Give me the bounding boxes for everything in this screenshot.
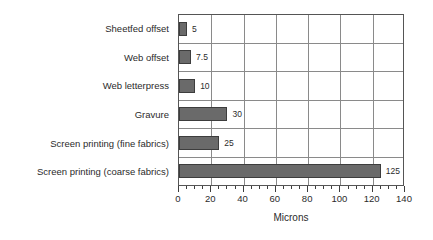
x-axis-title: Microns <box>178 212 404 223</box>
x-tick-minor <box>364 186 365 189</box>
x-tick-major <box>404 186 405 192</box>
plot-area: 5 7.5 10 30 25 125 <box>178 14 404 186</box>
x-tick-label: 80 <box>302 193 313 204</box>
bar-row: 125 <box>179 158 403 186</box>
x-tick-minor <box>331 186 332 189</box>
x-tick-minor <box>291 186 292 189</box>
x-tick-minor <box>202 186 203 189</box>
category-label-row: Screen printing (fine fabrics) <box>0 129 174 158</box>
category-label: Screen printing (fine fabrics) <box>50 138 169 149</box>
x-tick-major <box>210 186 211 192</box>
bar[interactable] <box>179 79 195 93</box>
x-tick-major <box>275 186 276 192</box>
category-axis-labels: Sheetfed offset Web offset Web letterpre… <box>0 14 174 186</box>
category-label: Sheetfed offset <box>105 23 169 34</box>
x-tick-minor <box>356 186 357 189</box>
bar-value-label: 7.5 <box>196 52 208 62</box>
x-tick-minor <box>396 186 397 189</box>
category-label-row: Screen printing (coarse fabrics) <box>0 157 174 186</box>
category-label-row: Sheetfed offset <box>0 14 174 43</box>
x-tick-major <box>178 186 179 192</box>
bar-row: 5 <box>179 15 403 44</box>
x-tick-minor <box>388 186 389 189</box>
x-tick-label: 0 <box>175 193 180 204</box>
category-label-row: Gravure <box>0 100 174 129</box>
x-tick-major <box>372 186 373 192</box>
x-tick-minor <box>259 186 260 189</box>
category-label: Gravure <box>135 109 169 120</box>
x-tick-minor <box>380 186 381 189</box>
bar-value-label: 30 <box>232 109 241 119</box>
x-tick-minor <box>186 186 187 189</box>
x-tick-major <box>339 186 340 192</box>
x-tick-minor <box>348 186 349 189</box>
x-tick-major <box>307 186 308 192</box>
bar[interactable] <box>179 136 219 150</box>
x-tick-minor <box>194 186 195 189</box>
bar-value-label: 125 <box>386 166 400 176</box>
bar-value-label: 5 <box>192 24 197 34</box>
bar-row: 7.5 <box>179 44 403 73</box>
x-tick-minor <box>323 186 324 189</box>
bar-value-label: 25 <box>224 138 233 148</box>
x-tick-label: 20 <box>205 193 216 204</box>
x-tick-minor <box>283 186 284 189</box>
x-tick-label: 140 <box>396 193 412 204</box>
x-tick-label: 60 <box>270 193 281 204</box>
category-label: Screen printing (coarse fabrics) <box>37 166 169 177</box>
x-tick-label: 100 <box>331 193 347 204</box>
bar[interactable] <box>179 164 381 178</box>
bar-row: 30 <box>179 101 403 130</box>
bar-chart: Sheetfed offset Web offset Web letterpre… <box>0 0 433 240</box>
category-label: Web offset <box>124 52 169 63</box>
bar-rows: 5 7.5 10 30 25 125 <box>179 15 403 185</box>
x-tick-minor <box>235 186 236 189</box>
x-tick-label: 120 <box>364 193 380 204</box>
x-tick-minor <box>218 186 219 189</box>
bar-row: 25 <box>179 129 403 158</box>
bar-value-label: 10 <box>200 81 209 91</box>
bar[interactable] <box>179 50 191 64</box>
x-tick-major <box>243 186 244 192</box>
x-tick-minor <box>299 186 300 189</box>
x-tick-minor <box>267 186 268 189</box>
bar-row: 10 <box>179 72 403 101</box>
bar[interactable] <box>179 107 227 121</box>
x-tick-minor <box>315 186 316 189</box>
x-tick-minor <box>251 186 252 189</box>
category-label-row: Web offset <box>0 43 174 72</box>
x-tick-minor <box>226 186 227 189</box>
x-tick-label: 40 <box>237 193 248 204</box>
category-label: Web letterpress <box>103 80 169 91</box>
bar[interactable] <box>179 22 187 36</box>
category-label-row: Web letterpress <box>0 71 174 100</box>
